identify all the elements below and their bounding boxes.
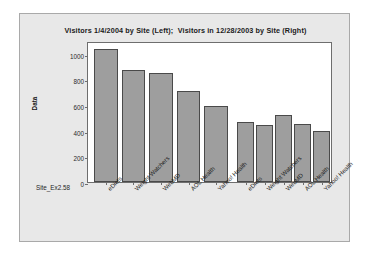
y-axis-tick-label: 400 [44,129,88,136]
bar [256,125,272,182]
y-axis-tick-label: 200 [44,155,88,162]
chart-panel: Visitors 1/4/2004 by Site (Left); Visito… [19,13,350,242]
y-axis-tick-mark [85,81,88,82]
x-axis-tick-mark [322,182,323,185]
x-axis-tick-mark [265,182,266,185]
x-axis-tick-mark [284,182,285,185]
x-axis-tick-mark [189,182,190,185]
y-axis-tick-mark [85,107,88,108]
bar [177,91,201,182]
chart-title: Visitors 1/4/2004 by Site (Left); Visito… [20,26,351,35]
y-axis-tick-mark [85,56,88,57]
bar [122,70,146,182]
y-axis-tick-mark [85,158,88,159]
y-axis-tick-mark [85,184,88,185]
x-axis-tick-mark [303,182,304,185]
y-axis-tick-label: 1000 [44,52,88,59]
y-axis-tick-label: 600 [44,104,88,111]
y-axis-tick-label: 0 [44,181,88,188]
bar [94,49,118,182]
figure-root: Visitors 1/4/2004 by Site (Left); Visito… [0,0,369,256]
y-axis-tick-label: 800 [44,78,88,85]
x-axis-tick-mark [246,182,247,185]
y-axis-title: Data [31,82,38,126]
y-axis-tick-mark [85,133,88,134]
